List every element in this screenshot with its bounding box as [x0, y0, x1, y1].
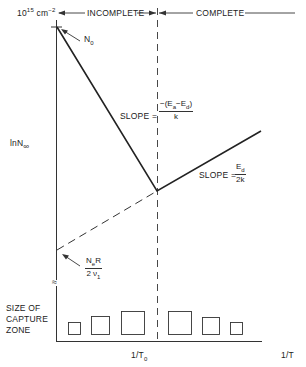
sl-num-a: −(E [160, 99, 173, 108]
t0-sub: 0 [144, 356, 148, 362]
y-label-sub: ∞ [23, 142, 29, 151]
capture-zone-label-line1: SIZE OF [6, 304, 40, 313]
region-incomplete-label: INCOMPLETE [87, 9, 144, 18]
top-label-exp: 15 [27, 7, 34, 13]
top-label-base: 10 [17, 8, 27, 18]
slope-left-numerator: −(Ea−Ed) [159, 100, 193, 112]
top-label-unit-exp: −2 [48, 7, 55, 13]
sl-num-end: ) [189, 99, 192, 108]
capture-zone-label-line2: CAPTURE [6, 315, 48, 324]
capture-zone-square-6 [231, 323, 243, 335]
int-den: 2 ν [86, 269, 97, 278]
slope-left-denominator: k [174, 112, 178, 121]
y-axis-top-label: 1015 cm−2 [17, 7, 55, 17]
axis-break-symbol: ≈ [52, 278, 57, 287]
n0-label: N0 [84, 35, 94, 46]
intercept-numerator: NeR [85, 257, 102, 269]
int-den-sub: 1 [97, 273, 100, 279]
extrapolated-dashed-line [57, 191, 157, 250]
slope-right-prefix: SLOPE = [199, 171, 236, 180]
sl-num-mid: −E [176, 99, 186, 108]
t0-text: 1/T [131, 350, 144, 360]
slope-right-numerator: Ed [235, 163, 246, 175]
n0-sub: 0 [90, 40, 94, 46]
capture-zone-label-line3: ZONE [6, 326, 30, 335]
y-axis-label: lnN∞ [10, 139, 29, 151]
intercept-fraction: NeR 2 ν1 [85, 257, 102, 279]
y-label-text: lnN [10, 138, 23, 148]
diagram-canvas [0, 0, 306, 367]
x-axis-label: 1/T [281, 351, 294, 360]
capture-zone-square-1 [69, 323, 81, 335]
intercept-denominator: 2 ν1 [86, 269, 100, 280]
int-num-end: R [95, 256, 101, 265]
slope-right-fraction: Ed 2k [235, 163, 246, 184]
capture-zone-square-3 [122, 312, 145, 335]
capture-zone-square-4 [169, 312, 192, 335]
t0-label: 1/T0 [131, 351, 147, 362]
slope-left-prefix: SLOPE = [120, 112, 157, 121]
top-label-unit: cm [34, 8, 48, 18]
capture-zone-square-5 [203, 318, 220, 335]
capture-zone-square-2 [92, 317, 110, 335]
slope-right-denominator: 2k [236, 175, 244, 184]
slope-left-fraction: −(Ea−Ed) k [159, 100, 193, 121]
sr-num-sub: d [241, 167, 244, 173]
region-complete-label: COMPLETE [196, 9, 244, 18]
